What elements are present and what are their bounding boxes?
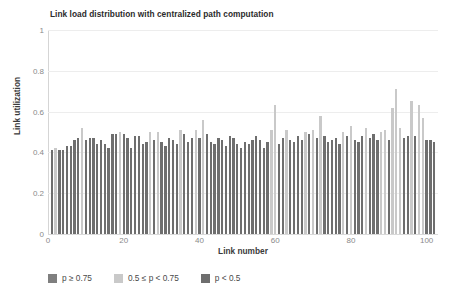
x-tick-label: 20 [104, 236, 144, 245]
bar [327, 142, 329, 234]
bar [335, 138, 337, 234]
legend-item-low[interactable]: p < 0.5 [201, 273, 241, 283]
chart-figure: Link load distribution with centralized … [0, 0, 457, 303]
bar [282, 138, 284, 234]
bar [183, 134, 185, 234]
bar [384, 130, 386, 234]
bar [96, 144, 98, 234]
bar [369, 138, 371, 234]
bar [274, 105, 276, 234]
legend-item-mid[interactable]: 0.5 ≤ p < 0.75 [114, 273, 179, 283]
bar [248, 144, 250, 234]
x-axis-label: Link number [48, 246, 438, 256]
bar [293, 142, 295, 234]
bar [331, 140, 333, 234]
bar [191, 138, 193, 234]
bar [342, 132, 344, 234]
bar [376, 140, 378, 234]
chart-title: Link load distribution with centralized … [50, 9, 274, 19]
bar [168, 138, 170, 234]
bar [418, 105, 420, 234]
bar [130, 148, 132, 234]
bar [399, 128, 401, 234]
chart-legend: p ≥ 0.750.5 ≤ p < 0.75p < 0.5 [48, 270, 438, 286]
bar [126, 138, 128, 234]
bar [66, 146, 68, 234]
bar [198, 138, 200, 234]
gridline [48, 234, 438, 235]
bar [346, 136, 348, 234]
bar [395, 89, 397, 234]
bar [422, 118, 424, 234]
bar [54, 148, 56, 234]
bar [187, 142, 189, 234]
y-tick-label: 0.8 [4, 66, 44, 75]
plot-area [48, 30, 438, 234]
y-tick-label: 0.6 [4, 107, 44, 116]
bar [350, 126, 352, 234]
bar [354, 140, 356, 234]
bar [225, 146, 227, 234]
bar [179, 130, 181, 234]
bar [172, 140, 174, 234]
bar [301, 140, 303, 234]
bar [206, 134, 208, 234]
bar [232, 138, 234, 234]
bar [433, 142, 435, 234]
bar [425, 140, 427, 234]
bar [202, 120, 204, 234]
bar [285, 130, 287, 234]
x-tick-label: 0 [28, 236, 68, 245]
bar [380, 132, 382, 234]
y-tick-label: 1 [4, 26, 44, 35]
bar [115, 134, 117, 234]
bar [104, 144, 106, 234]
bar [195, 130, 197, 234]
bar [210, 142, 212, 234]
bar [251, 140, 253, 234]
bar-series [48, 30, 438, 234]
bar [142, 144, 144, 234]
bar [134, 136, 136, 234]
bar [100, 140, 102, 234]
bar [51, 150, 53, 234]
bar [145, 142, 147, 234]
bar [119, 132, 121, 234]
bar [270, 130, 272, 234]
bar [217, 138, 219, 234]
bar [73, 140, 75, 234]
bar [289, 140, 291, 234]
legend-label-high: p ≥ 0.75 [62, 273, 92, 283]
bar [255, 136, 257, 234]
bar [221, 140, 223, 234]
bar [391, 108, 393, 234]
bar [319, 116, 321, 234]
bar [266, 142, 268, 234]
bar [338, 144, 340, 234]
bar [357, 142, 359, 234]
legend-swatch-low [201, 274, 210, 283]
bar [361, 136, 363, 234]
legend-item-high[interactable]: p ≥ 0.75 [48, 273, 92, 283]
bar [111, 134, 113, 234]
x-tick-label: 100 [407, 236, 447, 245]
y-tick-label: 0.4 [4, 148, 44, 157]
bar [414, 136, 416, 234]
bar [77, 138, 79, 234]
bar [372, 134, 374, 234]
bar [244, 142, 246, 234]
bar [157, 132, 159, 234]
y-axis-ticks: 00.20.40.60.81 [0, 30, 44, 234]
bar [107, 148, 109, 234]
bar [240, 148, 242, 234]
bar [259, 140, 261, 234]
bar [81, 128, 83, 234]
bar [323, 136, 325, 234]
legend-label-mid: 0.5 ≤ p < 0.75 [128, 273, 179, 283]
bar [278, 144, 280, 234]
bar [176, 144, 178, 234]
bar [229, 136, 231, 234]
bar [388, 140, 390, 234]
bar [89, 138, 91, 234]
bar [92, 138, 94, 234]
